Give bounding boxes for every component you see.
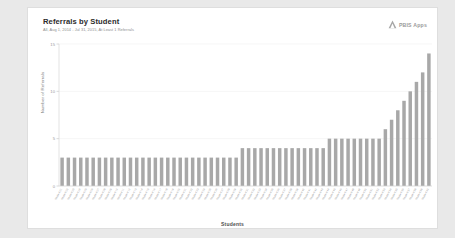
report-filter-summary: All, Aug 1, 2014 - Jul 31, 2015, At Leas… [43,27,134,32]
bar[interactable] [390,120,393,186]
bar[interactable] [409,91,412,186]
bar[interactable] [135,158,138,186]
bar[interactable] [359,139,362,186]
chart-plot-area: Number of Referrals 051015 Student 01Stu… [28,38,437,228]
bar[interactable] [309,148,312,186]
bar[interactable] [321,148,324,186]
bar[interactable] [91,158,94,186]
bar[interactable] [222,158,225,186]
y-tick-label: 10 [50,89,55,94]
bar[interactable] [315,148,318,186]
bar[interactable] [427,53,430,186]
bar[interactable] [185,158,188,186]
mountain-logo-icon [388,20,397,29]
y-axis-ticks: 051015 [50,42,59,189]
bar[interactable] [116,158,119,186]
bar[interactable] [191,158,194,186]
bar[interactable] [353,139,356,186]
bar[interactable] [253,148,256,186]
bar[interactable] [247,148,250,186]
bar[interactable] [166,158,169,186]
bar[interactable] [60,158,63,186]
gridlines [59,44,432,186]
bar[interactable] [73,158,76,186]
bar[interactable] [402,101,405,186]
bar[interactable] [129,158,132,186]
report-card: Referrals by Student All, Aug 1, 2014 - … [28,8,437,228]
bar[interactable] [123,158,126,186]
brand-logo: PBIS Apps [388,20,427,29]
bar[interactable] [160,158,163,186]
bar[interactable] [421,72,424,186]
y-tick-label: 0 [53,184,56,189]
bar[interactable] [178,158,181,186]
page-title: Referrals by Student [43,17,119,26]
bar[interactable] [365,139,368,186]
bar[interactable] [259,148,262,186]
bar[interactable] [154,158,157,186]
bar[interactable] [228,158,231,186]
bar[interactable] [290,148,293,186]
bar[interactable] [67,158,70,186]
bar[interactable] [328,139,331,186]
bar-chart-canvas: 051015 Student 01Student 02Student 03Stu… [28,38,437,228]
bar[interactable] [297,148,300,186]
bar[interactable] [98,158,101,186]
x-axis-ticks: Student 01Student 02Student 03Student 04… [54,187,430,200]
bar[interactable] [141,158,144,186]
bar[interactable] [216,158,219,186]
y-tick-label: 15 [50,42,55,47]
bar[interactable] [197,158,200,186]
bar[interactable] [278,148,281,186]
bar[interactable] [85,158,88,186]
x-axis-title: Students [28,221,437,227]
bar[interactable] [377,139,380,186]
bar[interactable] [396,110,399,186]
bar[interactable] [272,148,275,186]
bar[interactable] [384,129,387,186]
bar[interactable] [346,139,349,186]
bar[interactable] [266,148,269,186]
bar[interactable] [147,158,150,186]
bar[interactable] [284,148,287,186]
bar[interactable] [234,158,237,186]
card-header: Referrals by Student All, Aug 1, 2014 - … [28,8,437,38]
bar[interactable] [415,82,418,186]
brand-name: PBIS Apps [399,22,427,28]
bar[interactable] [340,139,343,186]
y-tick-label: 5 [53,136,56,141]
bar[interactable] [203,158,206,186]
bar[interactable] [172,158,175,186]
bar[interactable] [104,158,107,186]
screenshot-root: Referrals by Student All, Aug 1, 2014 - … [0,0,455,238]
bar[interactable] [371,139,374,186]
bar[interactable] [334,139,337,186]
bar[interactable] [79,158,82,186]
bar[interactable] [241,148,244,186]
bar[interactable] [303,148,306,186]
bar[interactable] [210,158,213,186]
bar-series [60,53,430,186]
bar[interactable] [110,158,113,186]
